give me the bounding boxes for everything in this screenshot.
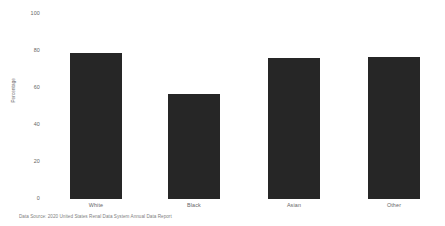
- bar-asian: [268, 58, 320, 199]
- y-tick-label-0: 0: [6, 196, 40, 201]
- x-tick-label-other: Other: [368, 203, 420, 208]
- x-axis-ticks: White Black Asian Other: [45, 203, 445, 213]
- bar-chart-figure: 100 80 60 40 20 0 Percentage White Black…: [0, 0, 445, 226]
- x-tick-label-black: Black: [168, 203, 220, 208]
- x-tick-label-asian: Asian: [268, 203, 320, 208]
- bar-white: [70, 53, 122, 199]
- y-axis-title: Percentage: [12, 70, 17, 110]
- y-tick-label-80: 80: [6, 48, 40, 53]
- y-axis-ticks: 100 80 60 40 20 0: [0, 14, 40, 199]
- y-tick-label-20: 20: [6, 159, 40, 164]
- plot-area: [45, 14, 445, 199]
- x-tick-label-white: White: [70, 203, 122, 208]
- y-tick-label-100: 100: [6, 11, 40, 16]
- source-note: Data Source: 2020 United States Renal Da…: [19, 214, 172, 219]
- bar-black: [168, 94, 220, 199]
- bar-other: [368, 57, 420, 199]
- y-tick-label-40: 40: [6, 122, 40, 127]
